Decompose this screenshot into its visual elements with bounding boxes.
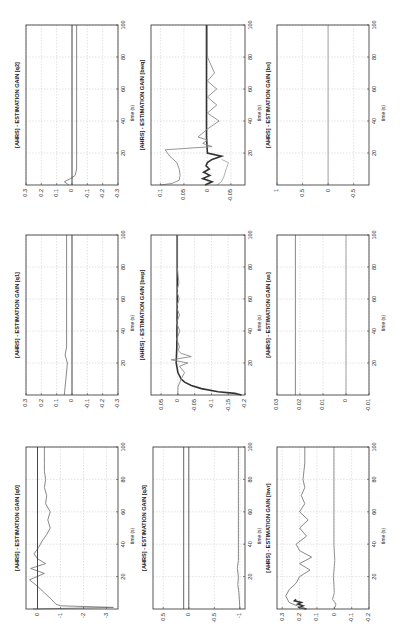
plot-area: 20406080100time (s)0.030.020.010-0.01[AH… — [277, 235, 369, 395]
time-tick-label: 80 — [371, 264, 377, 270]
time-axis-label: time (s) — [130, 528, 135, 544]
time-tick-label: 80 — [371, 476, 377, 482]
subplot-q2: 20406080100time (s)0.30.20.10-0.1-0.2-0.… — [26, 25, 118, 185]
value-tick-label: 0 — [34, 613, 40, 616]
plot-area: 20406080100time (s)0.50-0.5-1[AHRS] - ES… — [153, 447, 245, 609]
subplot-title: [AHRS] - ESTIMATION GAIN [bs] — [265, 62, 271, 148]
subplot-title: [AHRS] - ESTIMATION GAIN [as] — [265, 272, 271, 358]
time-tick-label: 20 — [371, 150, 377, 156]
time-tick-label: 60 — [371, 86, 377, 92]
time-tick-label: 60 — [247, 86, 253, 92]
subplot-title: [AHRS] - ESTIMATION GAIN [q1] — [14, 272, 20, 358]
value-tick-label: 0 — [68, 189, 74, 192]
time-tick-label: 60 — [371, 509, 377, 515]
time-tick-label: 100 — [371, 20, 377, 29]
time-tick-label: 40 — [371, 328, 377, 334]
value-tick-label: 0 — [331, 613, 337, 616]
value-tick-label: 0.05 — [158, 399, 164, 410]
time-axis-label: time (s) — [257, 105, 262, 121]
value-tick-label: -1 — [236, 613, 242, 618]
time-tick-label: 20 — [120, 150, 126, 156]
value-tick-label: -3 — [103, 613, 109, 618]
time-tick-label: 40 — [371, 541, 377, 547]
value-tick-label: 0.2 — [38, 399, 44, 407]
value-tick-label: 0.03 — [273, 399, 279, 410]
value-tick-label: -0.2 — [241, 399, 247, 408]
time-tick-label: 60 — [371, 296, 377, 302]
value-tick-label: 0.01 — [319, 399, 325, 410]
time-tick-label: 80 — [247, 476, 253, 482]
value-tick-label: 0.2 — [296, 613, 302, 621]
value-tick-label: -0.5 — [211, 613, 217, 622]
time-tick-label: 20 — [247, 360, 253, 366]
time-tick-label: 80 — [120, 476, 126, 482]
time-tick-label: 100 — [371, 442, 377, 451]
value-tick-label: -0.2 — [99, 399, 105, 408]
time-tick-label: 60 — [120, 296, 126, 302]
time-axis-label: time (s) — [257, 528, 262, 544]
subplot-bs: 20406080100time (s)10.50-0.5[AHRS] - EST… — [277, 25, 369, 185]
time-tick-label: 40 — [120, 118, 126, 124]
time-axis-label: time (s) — [381, 105, 386, 121]
value-tick-label: -0.1 — [348, 613, 354, 622]
plot-area: 20406080100time (s)0.10.050-0.05[AHRS] -… — [151, 25, 245, 185]
time-tick-label: 100 — [247, 442, 253, 451]
subplot-title: [AHRS] - ESTIMATION GAIN [q0] — [14, 485, 20, 571]
subplot-bwp: 20406080100time (s)0.050-0.05-0.1-0.15-0… — [151, 235, 245, 395]
subplot-bwr: 20406080100time (s)0.30.20.10-0.1-0.2[AH… — [277, 447, 369, 609]
value-tick-label: -2 — [80, 613, 86, 618]
value-tick-label: 0 — [174, 399, 180, 402]
value-tick-label: 0 — [68, 399, 74, 402]
time-axis-label: time (s) — [130, 105, 135, 121]
plot-area: 20406080100time (s)0.050-0.05-0.1-0.15-0… — [151, 235, 245, 395]
time-tick-label: 40 — [120, 541, 126, 547]
subplot-title: [AHRS] - ESTIMATION GAIN [bwq] — [139, 60, 145, 151]
plot-area: 20406080100time (s)0.30.20.10-0.1-0.2-0.… — [26, 25, 118, 185]
subplot-bwq: 20406080100time (s)0.10.050-0.05[AHRS] -… — [151, 25, 245, 185]
time-tick-label: 60 — [120, 509, 126, 515]
value-tick-label: -0.5 — [350, 189, 356, 198]
subplot-q3: 20406080100time (s)0.50-0.5-1[AHRS] - ES… — [153, 447, 245, 609]
time-tick-label: 100 — [120, 20, 126, 29]
subplot-q0: 20406080100time (s)0-1-2-3[AHRS] - ESTIM… — [26, 447, 118, 609]
value-tick-label: 0 — [204, 189, 210, 192]
value-tick-label: -0.2 — [99, 189, 105, 198]
time-axis-label: time (s) — [130, 315, 135, 331]
value-tick-label: 0 — [325, 189, 331, 192]
value-tick-label: 0.3 — [22, 189, 28, 197]
value-tick-label: 0.05 — [180, 189, 186, 200]
value-tick-label: 0.5 — [160, 613, 166, 621]
subplot-title: [AHRS] - ESTIMATION GAIN [q2] — [14, 62, 20, 148]
time-tick-label: 20 — [371, 574, 377, 580]
time-tick-label: 100 — [247, 20, 253, 29]
time-axis-label: time (s) — [381, 315, 386, 331]
time-tick-label: 80 — [120, 54, 126, 60]
value-tick-label: 0 — [342, 399, 348, 402]
value-tick-label: 1 — [273, 189, 279, 192]
value-tick-label: 0.2 — [38, 189, 44, 197]
time-tick-label: 40 — [120, 328, 126, 334]
time-axis-label: time (s) — [257, 315, 262, 331]
time-tick-label: 80 — [247, 54, 253, 60]
time-tick-label: 60 — [120, 86, 126, 92]
value-tick-label: 0.1 — [157, 189, 163, 197]
subplot-as: 20406080100time (s)0.030.020.010-0.01[AH… — [277, 235, 369, 395]
time-tick-label: 80 — [120, 264, 126, 270]
time-tick-label: 60 — [247, 509, 253, 515]
value-tick-label: 0 — [185, 613, 191, 616]
time-tick-label: 100 — [120, 442, 126, 451]
time-tick-label: 80 — [371, 54, 377, 60]
plot-area: 20406080100time (s)0.30.20.10-0.1-0.2[AH… — [277, 447, 369, 609]
value-tick-label: -0.05 — [191, 399, 197, 412]
value-tick-label: 0.02 — [296, 399, 302, 410]
time-tick-label: 100 — [247, 230, 253, 239]
value-tick-label: -0.15 — [225, 399, 231, 412]
value-tick-label: -0.05 — [227, 189, 233, 202]
value-tick-label: 0.5 — [299, 189, 305, 197]
subplot-title: [AHRS] - ESTIMATION GAIN [bwp] — [139, 270, 145, 361]
value-tick-label: -0.1 — [84, 189, 90, 198]
time-tick-label: 60 — [247, 296, 253, 302]
plot-area: 20406080100time (s)0.30.20.10-0.1-0.2-0.… — [26, 235, 118, 395]
value-tick-label: -0.1 — [208, 399, 214, 408]
value-tick-label: -0.2 — [365, 613, 371, 622]
